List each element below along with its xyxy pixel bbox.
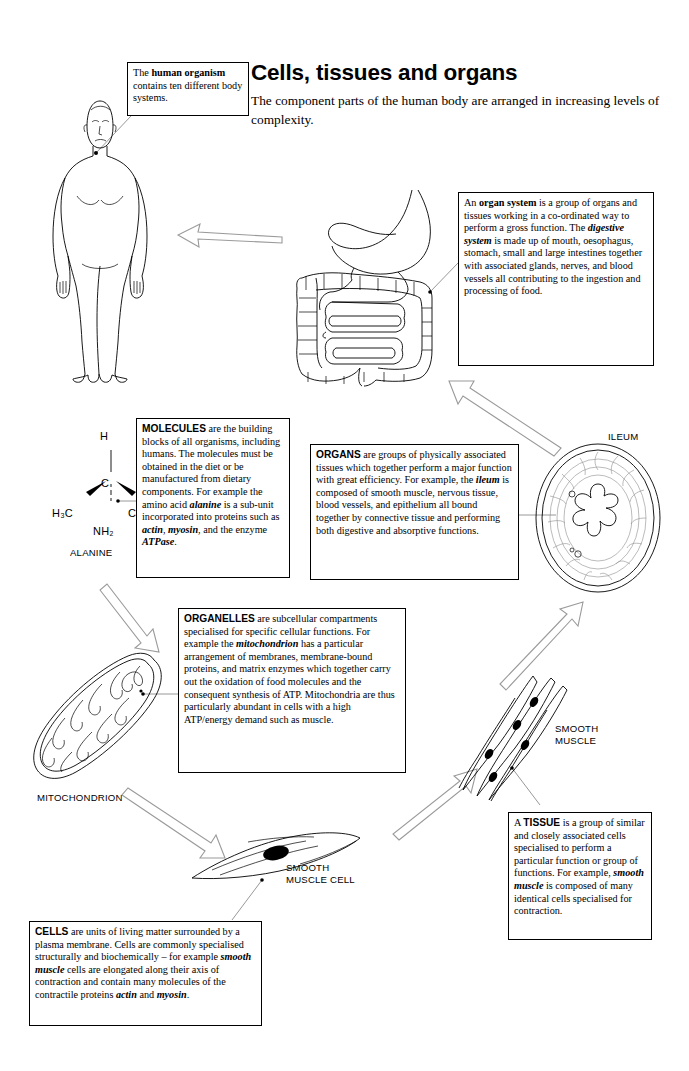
molecule-atom-bottom: NH₂ <box>93 526 114 538</box>
label-smooth-muscle-line1: SMOOTH <box>555 723 598 735</box>
cells-callout: CELLS are units of living matter surroun… <box>29 921 262 1026</box>
tissue-callout-heading: TISSUE <box>523 817 560 828</box>
molecule-atom-centre: C <box>101 478 109 490</box>
tissue-callout: A TISSUE is a group of similar and close… <box>508 812 652 940</box>
organelles-callout-heading: ORGANELLES <box>184 613 255 624</box>
human-body-figure <box>38 96 162 388</box>
ileum-cross-section-figure <box>532 442 664 594</box>
label-smooth-muscle-cell-line2: MUSCLE CELL <box>286 874 355 886</box>
molecule-atom-left: H₃C <box>52 508 73 520</box>
mitochondrion-figure <box>28 648 178 796</box>
label-ileum: ILEUM <box>608 431 638 443</box>
organs-callout: ORGANS are groups of physically associat… <box>310 444 519 580</box>
label-smooth-muscle-cell-line1: SMOOTH <box>286 862 355 874</box>
smooth-muscle-tissue-figure <box>455 676 570 801</box>
label-smooth-muscle-cell: SMOOTH MUSCLE CELL <box>286 862 355 885</box>
molecules-callout-heading: MOLECULES <box>142 423 206 434</box>
label-smooth-muscle: SMOOTH MUSCLE <box>555 723 598 746</box>
label-alanine: ALANINE <box>70 547 112 559</box>
organelles-callout: ORGANELLES are subcellular compartments … <box>178 608 406 773</box>
label-mitochondrion: MITOCHONDRION <box>37 792 123 804</box>
arrow-organ-system-to-organism <box>178 224 282 247</box>
molecules-callout: MOLECULES are the building blocks of all… <box>136 418 290 578</box>
diagram-page: Cells, tissues and organs The component … <box>0 0 689 1071</box>
human-organism-callout: The human organism contains ten differen… <box>127 62 249 116</box>
molecule-atom-top: H <box>100 431 108 443</box>
arrow-molecule-to-organelle <box>100 584 159 652</box>
cells-callout-heading: CELLS <box>35 926 68 937</box>
organs-callout-heading: ORGANS <box>316 449 361 460</box>
label-smooth-muscle-line2: MUSCLE <box>555 735 598 747</box>
digestive-system-figure <box>272 186 462 386</box>
organ-system-callout: An organ system is a group of organs and… <box>458 192 654 366</box>
